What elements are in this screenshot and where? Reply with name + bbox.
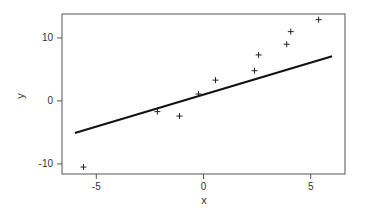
regression-line (75, 56, 332, 133)
fit-line (75, 56, 332, 133)
data-point-marker (284, 41, 290, 47)
data-points (80, 17, 321, 170)
data-point-marker (288, 29, 294, 35)
y-axis-label: y (14, 93, 26, 99)
data-point-marker (256, 52, 262, 58)
x-axis-label: x (201, 194, 207, 206)
axis-ticks: -505-10010 (39, 32, 314, 192)
data-point-marker (176, 113, 182, 119)
data-point-marker (252, 68, 258, 74)
y-tick-label: 0 (47, 95, 53, 106)
x-tick-label: 0 (201, 181, 207, 192)
x-tick-label: 5 (308, 181, 314, 192)
y-tick-label: 10 (42, 32, 54, 43)
x-tick-label: -5 (92, 181, 101, 192)
scatter-chart: -505-10010 x y (0, 0, 367, 212)
y-tick-label: -10 (39, 158, 54, 169)
data-point-marker (80, 164, 86, 170)
data-point-marker (316, 17, 322, 23)
data-point-marker (213, 77, 219, 83)
